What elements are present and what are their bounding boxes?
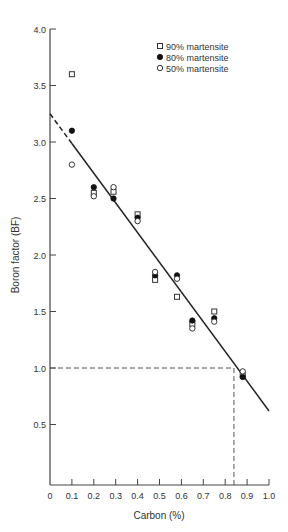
boron-factor-chart: 0.51.01.52.02.53.03.54.000.10.20.30.40.5… (0, 0, 288, 532)
data-point (190, 326, 195, 331)
data-point (240, 374, 245, 379)
data-point (152, 269, 157, 274)
x-tick-label: 0.3 (109, 491, 122, 501)
dashed-guides (50, 368, 234, 485)
x-tick-label: 0.9 (241, 491, 254, 501)
y-axis-label: Boron factor (BF) (10, 217, 21, 294)
x-tick-label: 1.0 (263, 491, 276, 501)
y-tick-label: 2.5 (33, 194, 46, 204)
data-point (175, 294, 180, 299)
data-point (135, 218, 140, 223)
fit-line-extrapolated (50, 114, 72, 144)
y-tick-label: 2.0 (33, 251, 46, 261)
x-tick-label: 0.4 (131, 491, 144, 501)
fit-line (50, 114, 269, 411)
legend: 90% martensite80% martensite50% martensi… (157, 42, 228, 74)
data-point (240, 369, 245, 374)
legend-marker (157, 54, 162, 59)
y-tick-label: 3.5 (33, 81, 46, 91)
data-point (69, 128, 74, 133)
x-axis-label: Carbon (%) (133, 510, 184, 521)
data-point (111, 185, 116, 190)
axes: 0.51.01.52.02.53.03.54.000.10.20.30.40.5… (33, 25, 275, 502)
data-point (69, 72, 74, 77)
data-point (212, 309, 217, 314)
x-tick-label: 0.7 (197, 491, 210, 501)
x-tick-label: 0.8 (219, 491, 232, 501)
x-tick-label: 0.6 (175, 491, 188, 501)
y-tick-label: 1.5 (33, 307, 46, 317)
data-point (190, 318, 195, 323)
x-tick-label: 0 (47, 491, 52, 501)
fit-line-solid (72, 143, 269, 410)
y-tick-label: 1.0 (33, 364, 46, 374)
data-point (174, 276, 179, 281)
y-tick-label: 4.0 (33, 25, 46, 35)
y-tick-label: 0.5 (33, 420, 46, 430)
data-point (69, 162, 74, 167)
data-point (212, 319, 217, 324)
x-tick-label: 0.2 (88, 491, 101, 501)
x-tick-label: 0.5 (153, 491, 166, 501)
data-point (111, 196, 116, 201)
x-tick-label: 0.1 (66, 491, 79, 501)
legend-marker (158, 44, 163, 49)
legend-label: 90% martensite (166, 42, 229, 52)
legend-marker (157, 65, 162, 70)
legend-label: 80% martensite (166, 53, 229, 63)
data-point (91, 185, 96, 190)
data-points (69, 72, 245, 380)
y-tick-label: 3.0 (33, 138, 46, 148)
legend-label: 50% martensite (166, 64, 229, 74)
data-point (91, 194, 96, 199)
